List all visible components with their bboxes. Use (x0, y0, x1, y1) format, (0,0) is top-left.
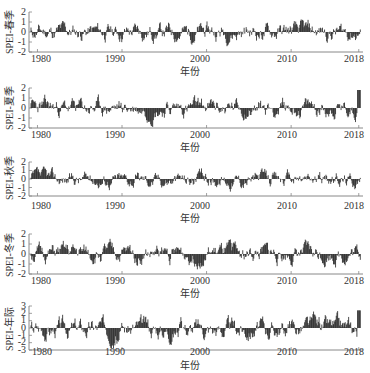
x-tick: 1980 (31, 276, 51, 286)
x-tick: 2018 (344, 54, 364, 64)
x-tick: 1980 (31, 130, 51, 140)
x-tick: 2010 (277, 130, 297, 140)
y-tick: -3 (13, 345, 26, 355)
x-tick: 2010 (277, 347, 297, 357)
x-tick: 1990 (105, 54, 125, 64)
x-tick: 1990 (105, 347, 125, 357)
panel-summer: SPEI-夏季 2 1 0 -1 -2 1980 1990 2000 2010 … (0, 76, 370, 151)
x-axis-label: 年份 (180, 357, 200, 372)
y-tick: -2 (13, 191, 26, 201)
panel-spring: SPEI-春季 2 1 0 -1 -2 1980 1990 2000 2010 … (0, 0, 370, 75)
x-tick: 2000 (190, 347, 210, 357)
x-tick: 2010 (277, 201, 297, 211)
x-tick: 1980 (31, 201, 51, 211)
x-tick: 1990 (105, 130, 125, 140)
panel-annual: SPEI-年际 3 2 1 0 -1 -2 -3 1980 1990 2000 … (0, 297, 370, 373)
plot-area (29, 12, 363, 52)
panel-winter: SPEI-冬季 2 1 0 -1 -2 1980 1990 2000 2010 … (0, 222, 370, 297)
x-tick: 1980 (32, 347, 52, 357)
x-tick: 1990 (105, 201, 125, 211)
plot-area (29, 234, 363, 274)
x-tick: 2010 (277, 54, 297, 64)
x-tick: 1990 (105, 276, 125, 286)
panel-autumn: SPEI-秋季 2 1 0 -1 -2 1980 1990 2000 2010 … (0, 152, 370, 222)
x-tick: 2018 (344, 276, 364, 286)
x-tick: 2018 (344, 130, 364, 140)
y-tick: -2 (13, 269, 26, 279)
y-tick: -2 (13, 123, 26, 133)
plot-area (29, 88, 363, 128)
plot-area (29, 306, 363, 350)
x-tick: 1980 (31, 54, 51, 64)
x-tick: 2018 (344, 201, 364, 211)
plot-area (29, 162, 363, 196)
y-tick: -2 (13, 47, 26, 57)
x-tick: 2018 (344, 347, 364, 357)
x-tick: 2010 (277, 276, 297, 286)
